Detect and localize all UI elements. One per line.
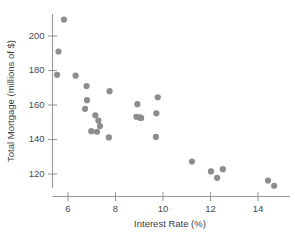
y-tick-label: 160 [29, 99, 45, 110]
data-point [134, 101, 140, 107]
data-point [94, 129, 100, 135]
plot-canvas: 120140160180200 68101214 Interest Rate (… [0, 0, 295, 240]
data-point [214, 175, 220, 181]
data-point [220, 166, 226, 172]
data-point [54, 72, 60, 78]
x-tick-label: 12 [205, 203, 216, 214]
data-point [73, 73, 79, 79]
data-point [88, 128, 94, 134]
data-point [106, 88, 112, 94]
data-point [189, 158, 195, 164]
x-axis-group: 68101214 [53, 192, 291, 214]
scatter-plot-figure: 120140160180200 68101214 Interest Rate (… [0, 0, 295, 240]
data-point [138, 115, 144, 121]
data-point [153, 134, 159, 140]
y-axis-title: Total Mortgage (millions of $) [5, 40, 16, 162]
data-point [82, 106, 88, 112]
x-tick-label: 10 [158, 203, 169, 214]
x-tick-label: 8 [113, 203, 118, 214]
x-axis-ticks: 68101214 [65, 192, 263, 214]
y-axis-group: 120140160180200 [29, 14, 57, 188]
y-tick-label: 140 [29, 133, 45, 144]
data-point [153, 110, 159, 116]
data-point [155, 94, 161, 100]
data-point [106, 134, 112, 140]
data-point [271, 183, 277, 189]
y-tick-label: 200 [29, 30, 45, 41]
y-tick-label: 180 [29, 64, 45, 75]
x-tick-label: 6 [65, 203, 70, 214]
data-point [95, 117, 101, 123]
data-point [84, 97, 90, 103]
y-tick-label: 120 [29, 168, 45, 179]
data-points-layer [54, 17, 277, 189]
x-axis-title: Interest Rate (%) [134, 218, 206, 229]
data-point [61, 17, 67, 23]
data-point [265, 177, 271, 183]
data-point [55, 48, 61, 54]
data-point [97, 123, 103, 129]
x-tick-label: 14 [253, 203, 264, 214]
data-point [208, 168, 214, 174]
data-point [92, 112, 98, 118]
data-point [83, 83, 89, 89]
